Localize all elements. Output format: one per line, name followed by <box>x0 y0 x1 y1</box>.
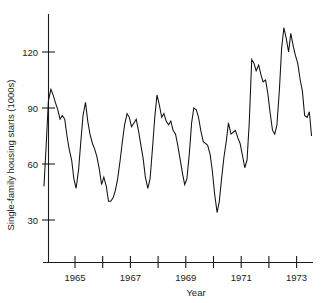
housing-starts-chart: Single-family housing starts (1000s) 306… <box>0 0 324 303</box>
x-axis-ticks: 19651967196919711973 <box>64 256 307 283</box>
x-tick-label-1973: 1973 <box>286 272 307 283</box>
y-tick-label-120: 120 <box>22 47 38 58</box>
series-line-single-family-housing-starts <box>44 28 312 213</box>
chart-svg: Single-family housing starts (1000s) 306… <box>0 0 324 303</box>
x-tick-label-1969: 1969 <box>175 272 196 283</box>
y-tick-label-30: 30 <box>27 215 38 226</box>
x-tick-label-1967: 1967 <box>120 272 141 283</box>
y-tick-label-60: 60 <box>27 159 38 170</box>
y-axis-ticks: 306090120 <box>22 47 55 226</box>
y-tick-label-90: 90 <box>27 103 38 114</box>
x-axis-title: Year <box>186 287 205 298</box>
y-axis-title: Single-family housing starts (1000s) <box>5 79 16 230</box>
x-tick-label-1971: 1971 <box>231 272 252 283</box>
x-tick-label-1965: 1965 <box>64 272 85 283</box>
